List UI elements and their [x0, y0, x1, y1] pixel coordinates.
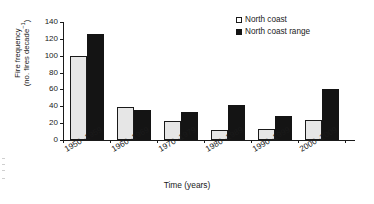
y-axis-title-exponent: −1	[20, 22, 26, 28]
y-tick-label-100: 100	[36, 52, 58, 60]
y-tick-label-40: 40	[36, 102, 58, 110]
y-tick-label-140: 140	[36, 18, 58, 26]
y-tick-20	[60, 123, 63, 124]
figure: Fire frequency (no. fires decade−1) 0 20…	[0, 0, 374, 204]
y-tick-60	[60, 89, 63, 90]
y-axis-title-line1: Fire frequency	[13, 28, 22, 77]
filled-square-icon	[236, 29, 242, 35]
x-tick-4	[251, 140, 252, 143]
open-square-icon	[236, 17, 242, 23]
y-axis-title: Fire frequency (no. fires decade−1)	[7, 0, 37, 113]
y-tick-140	[60, 22, 63, 23]
page-artifact	[2, 178, 5, 179]
x-tick-6	[345, 140, 346, 143]
x-tick-3	[204, 140, 205, 143]
x-tick-1	[110, 140, 111, 143]
legend-label-north-coast-range: North coast range	[245, 27, 310, 36]
y-axis-title-line2-suffix: )	[22, 20, 31, 23]
y-tick-label-60: 60	[36, 85, 58, 93]
legend-label-north-coast: North coast	[245, 15, 287, 24]
y-tick-label-20: 20	[36, 119, 58, 127]
y-tick-40	[60, 106, 63, 107]
y-tick-100	[60, 56, 63, 57]
bar-north-coast-1950-1959	[70, 56, 87, 140]
y-axis-line	[63, 22, 64, 140]
x-tick-0	[63, 140, 64, 143]
page-artifact	[2, 170, 5, 171]
legend: North coast North coast range	[236, 14, 310, 38]
x-tick-5	[298, 140, 299, 143]
y-tick-label-80: 80	[36, 69, 58, 77]
y-tick-label-120: 120	[36, 35, 58, 43]
page-artifact	[2, 158, 5, 159]
y-axis-title-line2-prefix: (no. fires decade	[22, 29, 31, 86]
page-artifact	[2, 164, 5, 165]
x-axis-title: Time (years)	[0, 180, 374, 190]
y-tick-label-0: 0	[36, 136, 58, 144]
legend-item-north-coast-range: North coast range	[236, 26, 310, 37]
plot-area: 0 20 40 60 80 100 120 140	[63, 22, 355, 140]
y-tick-80	[60, 73, 63, 74]
y-tick-120	[60, 39, 63, 40]
x-tick-2	[157, 140, 158, 143]
bar-north-coast-range-1950-1959	[87, 34, 104, 140]
legend-item-north-coast: North coast	[236, 14, 310, 25]
